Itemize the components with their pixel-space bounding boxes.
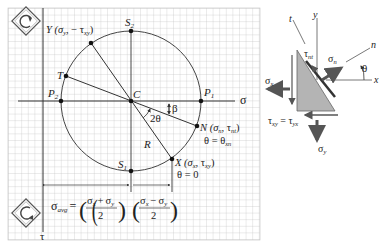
svg-text:σx+σy: σx+σy <box>87 195 114 207</box>
label-r: R <box>143 138 151 150</box>
svg-text:τxy = τyx: τxy = τyx <box>268 115 298 127</box>
label-sigma-axis: σ <box>240 93 247 107</box>
svg-text:σn: σn <box>328 53 337 65</box>
svg-text:2: 2 <box>151 210 156 221</box>
svg-text:τnt: τnt <box>304 48 313 60</box>
point-t <box>64 74 69 79</box>
label-2theta: 2θ <box>150 112 161 124</box>
mohr-circle-diagram: S2 S1 P1 P2 T C R 2θ β σ τ Y (σy, − τxy)… <box>0 0 387 244</box>
point-p2 <box>59 99 64 104</box>
svg-text:θ: θ <box>362 62 367 74</box>
point-p1 <box>199 99 204 104</box>
label-c: C <box>133 88 141 100</box>
svg-text:σx−σy: σx−σy <box>140 195 167 207</box>
label-tau-axis: τ <box>40 230 45 242</box>
svg-text:(: ( <box>79 197 87 223</box>
svg-text:): ) <box>170 197 178 223</box>
svg-text:σy: σy <box>318 143 326 155</box>
point-y <box>89 41 94 46</box>
svg-text:): ) <box>118 197 126 223</box>
svg-text:(: ( <box>132 197 140 223</box>
svg-text:2: 2 <box>98 210 103 221</box>
point-n <box>195 124 200 129</box>
label-t: T <box>57 69 64 81</box>
svg-text:t: t <box>289 13 292 24</box>
point-s1 <box>129 169 134 174</box>
svg-text:y: y <box>312 9 318 20</box>
label-beta: β <box>172 102 178 114</box>
svg-text:x: x <box>373 74 379 85</box>
point-x <box>170 157 175 162</box>
svg-text:σx: σx <box>265 75 273 87</box>
label-x-theta: θ = 0 <box>177 169 198 180</box>
svg-text:n: n <box>371 39 376 50</box>
stress-element: y x t n θ τnt σn σx τxy = τyx σy <box>265 9 379 155</box>
